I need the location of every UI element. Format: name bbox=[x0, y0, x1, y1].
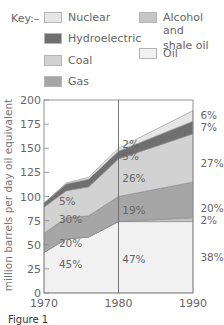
y-tick-label: 50 bbox=[27, 239, 41, 252]
legend-item-oil: Oil bbox=[139, 47, 178, 60]
legend-label: Gas bbox=[68, 75, 89, 88]
stacked-area-chart: 0255075100125150175200 197019801990 45%2… bbox=[0, 90, 224, 321]
percent-label: 26% bbox=[122, 172, 145, 184]
swatch-hydroelectric bbox=[44, 33, 62, 44]
x-tick-label: 1970 bbox=[30, 297, 58, 310]
y-tick-label: 150 bbox=[20, 142, 41, 155]
percent-label: 20% bbox=[200, 202, 223, 214]
swatch-alcohol-shale-oil bbox=[139, 12, 157, 23]
swatch-coal bbox=[44, 55, 62, 66]
y-axis-ticks: 0255075100125150175200 bbox=[20, 94, 49, 300]
y-axis-label: million barrels per day oil equivalent bbox=[2, 99, 14, 291]
percent-label: 38% bbox=[200, 251, 223, 263]
legend-item-alcohol-shale-oil: Alcohol and shale oil bbox=[139, 11, 224, 52]
swatch-gas bbox=[44, 76, 62, 87]
x-tick-label: 1990 bbox=[179, 297, 207, 310]
y-tick-label: 25 bbox=[27, 263, 41, 276]
swatch-nuclear bbox=[44, 12, 62, 23]
x-axis-ticks: 197019801990 bbox=[30, 297, 207, 310]
figure-caption: Figure 1 bbox=[8, 314, 48, 325]
percent-label: 20% bbox=[59, 237, 82, 249]
legend-label: Hydroelectric bbox=[68, 32, 141, 45]
swatch-oil bbox=[139, 48, 157, 59]
legend-label-wrap: Alcohol and shale oil bbox=[163, 11, 224, 52]
legend-label: Coal bbox=[68, 54, 92, 67]
x-tick-label: 1980 bbox=[105, 297, 133, 310]
percent-label: 7% bbox=[200, 121, 217, 133]
percent-label: 6% bbox=[200, 109, 217, 121]
percent-label: 2% bbox=[122, 138, 139, 150]
percent-label: 5% bbox=[122, 150, 139, 162]
legend-item-coal: Coal bbox=[44, 54, 92, 67]
legend-key-label: Key:– bbox=[11, 12, 39, 25]
percent-label: 19% bbox=[122, 204, 145, 216]
y-tick-label: 125 bbox=[20, 166, 41, 179]
y-tick-label: 200 bbox=[20, 94, 41, 107]
legend-label-line1: Alcohol and bbox=[163, 11, 224, 37]
y-tick-label: 175 bbox=[20, 118, 41, 131]
legend-label: Oil bbox=[163, 47, 178, 60]
legend-item-gas: Gas bbox=[44, 75, 89, 88]
percent-label: 2% bbox=[200, 214, 217, 226]
percent-label: 30% bbox=[59, 213, 82, 225]
y-tick-label: 100 bbox=[20, 191, 41, 204]
legend-item-hydroelectric: Hydroelectric bbox=[44, 32, 141, 45]
percent-label: 47% bbox=[122, 253, 145, 265]
percent-label: 27% bbox=[200, 157, 223, 169]
legend-label: Nuclear bbox=[68, 11, 110, 24]
percent-label: 45% bbox=[59, 258, 82, 270]
y-tick-label: 75 bbox=[27, 215, 41, 228]
legend: Key:– Nuclear Hydroelectric Coal Gas Alc… bbox=[0, 0, 224, 90]
legend-item-nuclear: Nuclear bbox=[44, 11, 110, 24]
percent-label: 5% bbox=[59, 195, 76, 207]
